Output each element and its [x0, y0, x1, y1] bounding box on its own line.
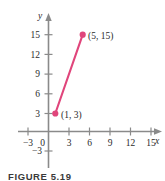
x-tick-label-3: 3: [67, 138, 72, 148]
data-point-1-3: [52, 110, 58, 116]
data-point-5-15: [80, 32, 86, 38]
x-axis-arrow-icon: [154, 128, 162, 134]
data-series-segment: [52, 32, 86, 117]
x-tick-labels: −3 0 3 6 9 12 15: [23, 138, 156, 148]
y-tick-label-6: 6: [35, 89, 40, 99]
annotation-point-1-3: (1, 3): [61, 110, 82, 121]
x-tick-label-9: 9: [108, 138, 113, 148]
figure-caption: FIGURE 5.19: [8, 171, 72, 181]
y-tick-label-12: 12: [31, 50, 41, 60]
x-tick-label-6: 6: [87, 138, 92, 148]
line-segment: [55, 35, 82, 114]
x-tick-label-neg3: −3: [23, 138, 33, 148]
y-axis-arrow-icon: [45, 13, 51, 21]
annotation-point-5-15: (5, 15): [88, 31, 113, 42]
y-tick-label-9: 9: [35, 69, 40, 79]
x-tick-label-12: 12: [126, 138, 136, 148]
y-tick-label-15: 15: [31, 30, 41, 40]
coordinate-plane-chart: y x 15 12 9 6 3 −3: [0, 0, 165, 181]
x-tick-label-15: 15: [146, 138, 156, 148]
y-axis-label: y: [37, 11, 43, 21]
y-tick-label-3: 3: [35, 109, 40, 119]
x-tick-label-0: 0: [40, 138, 45, 148]
figure-container: y x 15 12 9 6 3 −3: [0, 0, 165, 181]
